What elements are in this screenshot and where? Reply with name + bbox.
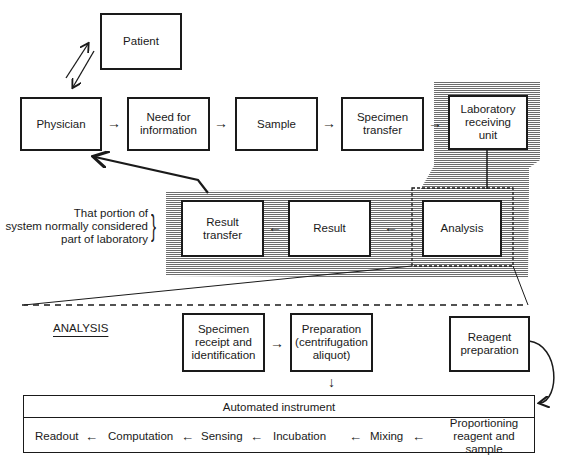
specimen-transfer-label: Specimen transfer (357, 111, 408, 137)
automated-instrument-title: Automated instrument (24, 396, 534, 418)
arrow-down-icon: ↓ (328, 375, 335, 389)
preparation-box: Preparation (centrifugation aliquot) (290, 313, 373, 372)
physician-label: Physician (36, 118, 85, 131)
arrow-left-icon: ← (268, 220, 282, 234)
physician-to-patient-arrow (66, 44, 88, 78)
need-for-information-box: Need for information (127, 97, 210, 151)
laboratory-note: That portion of system normally consider… (0, 207, 148, 246)
note-line-3: part of laboratory (0, 233, 148, 246)
need-for-information-label: Need for information (140, 111, 197, 137)
arrow-left-icon: ← (384, 220, 398, 234)
reagent-preparation-box: Reagent preparation (449, 316, 530, 372)
patient-label: Patient (123, 35, 159, 48)
result-to-physician-arrow (95, 157, 208, 193)
step-proportioning: Proportioning reagent and sample (434, 418, 534, 454)
preparation-label: Preparation (centrifugation aliquot) (295, 323, 368, 362)
laboratory-receiving-unit-label: Laboratory receiving unit (461, 103, 516, 142)
step-sensing: Sensing (201, 418, 243, 454)
result-label: Result (313, 222, 346, 235)
automated-instrument-box: Automated instrument Readout ← Computati… (23, 395, 535, 453)
arrow-right-icon: → (322, 116, 336, 130)
arrow-left-icon: ← (250, 418, 263, 454)
bracket-icon: } (151, 207, 156, 245)
note-line-2: system normally considered (0, 220, 148, 233)
arrow-left-icon: ← (349, 418, 362, 454)
arrow-left-icon: ← (181, 418, 194, 454)
step-incubation: Incubation (273, 418, 326, 454)
result-box: Result (288, 200, 371, 257)
sample-box: Sample (235, 97, 318, 151)
instrument-steps: Readout ← Computation ← Sensing ← Incuba… (24, 418, 534, 454)
result-transfer-label: Result transfer (203, 216, 242, 242)
specimen-receipt-label: Specimen receipt and identification (192, 323, 256, 362)
step-readout: Readout (35, 418, 78, 454)
analysis-box: Analysis (422, 200, 502, 257)
physician-box: Physician (20, 97, 102, 151)
step-mixing: Mixing (370, 418, 403, 454)
arrow-right-icon: → (214, 116, 228, 130)
analysis-section-title: ANALYSIS (53, 322, 108, 334)
patient-to-physician-arrow (73, 51, 94, 87)
specimen-transfer-box: Specimen transfer (341, 97, 424, 151)
arrow-right-icon: → (270, 336, 284, 350)
laboratory-receiving-unit-box: Laboratory receiving unit (448, 95, 528, 150)
arrow-left-icon: ← (412, 418, 425, 454)
patient-box: Patient (100, 13, 182, 70)
specimen-receipt-box: Specimen receipt and identification (182, 313, 265, 372)
result-transfer-box: Result transfer (181, 200, 264, 257)
arrow-right-icon: → (428, 116, 442, 130)
arrow-left-icon: ← (85, 418, 98, 454)
reagent-preparation-label: Reagent preparation (460, 331, 518, 357)
arrow-right-icon: → (107, 116, 121, 130)
note-line-1: That portion of (0, 207, 148, 220)
reagent-to-instrument-arrow (529, 341, 554, 403)
step-computation: Computation (108, 418, 173, 454)
analysis-label: Analysis (441, 222, 484, 235)
sample-label: Sample (257, 118, 296, 131)
